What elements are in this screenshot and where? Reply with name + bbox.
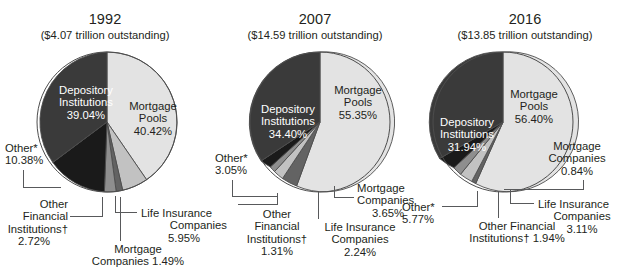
label-1992-mortgage-companies: Mortgage Companies 1.49% [68,243,208,268]
pie-chart-figure: 1992 ($4.07 trillion outstanding) Dep [0,0,630,277]
label-1992-depository: Depository Institutions 39.04% [48,84,124,121]
label-2007-mortgage-pools: Mortgage Pools 55.35% [322,84,394,121]
label-2007-lic-line1: Life Insurance [314,221,406,233]
label-2016-other-line1: Other* [402,201,458,213]
label-2007-other-value: 3.05% [215,164,275,176]
leader-2007-mc-h [334,197,354,198]
panel-2016-title: 2016 [420,11,630,27]
label-2016-life-insurance-companies: Life Insurance Companies 3.11% [538,198,630,235]
label-2007-mortgage-pools-line2: Pools [322,96,394,108]
label-1992-ofi-line3: Institutions† [0,223,68,235]
panel-2016: 2016 ($13.85 trillion outstanding) Depos… [420,0,630,277]
leader-2016-other-v [477,191,478,207]
leader-2007-mc-v [334,186,335,198]
label-2007-depository: Depository Institutions 34.40% [248,103,328,140]
label-2007-depository-value: 34.40% [248,128,328,140]
label-1992-mc-line1: Mortgage [68,243,208,255]
label-2016-mortgage-pools-line1: Mortgage [498,88,570,100]
leader-1992-other-v [23,170,24,188]
panel-2007-title: 2007 [210,11,420,27]
label-2016-depository: Depository Institutions 31.94% [426,116,508,153]
panel-1992: 1992 ($4.07 trillion outstanding) Dep [0,0,210,277]
leader-2007-ofi-h [238,204,278,205]
label-2016-lic-value: 3.11% [538,223,626,235]
leader-2007-lic-v [318,192,319,219]
label-2007-other-financial-institutions: Other Financial Institutions† 1.31% [238,208,316,258]
label-2007-depository-line1: Depository [248,103,328,115]
label-1992-ofi-line1: Other [0,198,68,210]
label-2007-ofi-line3: Institutions† [238,233,316,245]
leader-2016-mc-h [504,189,584,190]
label-2016-depository-line2: Institutions [426,128,508,140]
label-2007-lic-line2: Companies [314,233,406,245]
leader-2007-other-h [232,196,277,197]
label-2016-lic-line1: Life Insurance [538,198,630,210]
label-2016-mc-line1: Mortgage [535,140,619,152]
label-1992-mc-line2: Companies 1.49% [68,255,208,267]
label-2007-ofi-line1: Other [238,208,316,220]
label-2016-lic-line2: Companies [538,210,626,222]
label-1992-mortgage-pools-line1: Mortgage [118,100,188,112]
label-2007-depository-line2: Institutions [248,115,328,127]
label-2016-mortgage-companies: Mortgage Companies 0.84% [535,140,619,177]
label-2007-ofi-line2: Financial [238,220,316,232]
leader-2007-other-v [232,180,233,197]
leader-2016-other-h [442,206,478,207]
label-2016-mortgage-pools: Mortgage Pools 56.40% [498,88,570,125]
leader-2016-lic-h [510,203,534,204]
label-1992-mortgage-pools: Mortgage Pools 40.42% [118,100,188,137]
label-1992-depository-line2: Institutions [48,96,124,108]
leader-1992-ofi-h [70,216,103,217]
panel-2016-subtitle: ($13.85 trillion outstanding) [420,29,630,41]
leader-1992-other-h [23,187,61,188]
leader-2016-ofi-v [498,191,499,218]
leader-1992-ofi-v [102,197,103,217]
panel-2007: 2007 ($14.59 trillion outstanding) Depos… [210,0,420,277]
label-1992-mortgage-pools-line2: Pools [118,112,188,124]
leader-2007-ofi-v [277,193,278,205]
label-2007-mortgage-pools-line1: Mortgage [322,84,394,96]
leader-1992-mc-v [120,197,121,241]
label-2016-mc-line2: Companies [535,152,619,164]
label-2016-mortgage-pools-value: 56.40% [498,113,570,125]
panel-1992-title: 1992 [0,11,210,27]
label-2016-mortgage-pools-line2: Pools [498,100,570,112]
label-2016-depository-value: 31.94% [426,141,508,153]
panel-1992-subtitle: ($4.07 trillion outstanding) [0,29,210,41]
label-1992-other-value: 10.38% [5,154,67,166]
label-2007-ofi-value: 1.31% [238,245,316,257]
leader-2016-lic-v [510,189,511,204]
panel-2007-subtitle: ($14.59 trillion outstanding) [210,29,420,41]
label-2016-depository-line1: Depository [426,116,508,128]
label-2007-other-line1: Other* [215,152,275,164]
leader-1992-lic-v [115,196,116,213]
label-1992-ofi-line2: Financial [0,210,68,222]
label-2007-life-insurance-companies: Life Insurance Companies 2.24% [314,221,406,258]
label-1992-other-financial-institutions: Other Financial Institutions† 2.72% [0,198,68,248]
label-1992-depository-line1: Depository [48,84,124,96]
leader-1992-lic-h [115,212,137,213]
label-1992-depository-value: 39.04% [48,109,124,121]
label-1992-mortgage-pools-value: 40.42% [118,125,188,137]
label-2016-mc-value: 0.84% [535,165,619,177]
label-2007-mortgage-pools-value: 55.35% [322,109,394,121]
label-1992-other-line1: Other* [5,142,67,154]
label-1992-ofi-value: 2.72% [0,235,68,247]
label-1992-other: Other* 10.38% [5,142,67,167]
label-2007-lic-value: 2.24% [314,246,406,258]
label-2007-other: Other* 3.05% [215,152,275,177]
